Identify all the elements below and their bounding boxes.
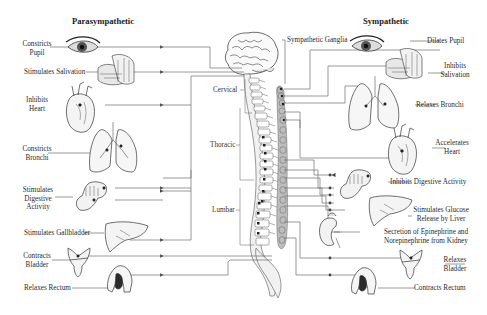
label-line: Accelerates — [432, 139, 472, 148]
eye-icon — [350, 36, 384, 51]
label-line: Release by Liver — [410, 215, 472, 224]
para-label-digestive: Stimulates Digestive Activity — [20, 186, 56, 212]
label-line: Bladder — [20, 261, 54, 270]
autonomic-nervous-system-diagram: Parasympathetic Sympathetic Sympathetic … — [0, 0, 487, 315]
label-line: Bronchi — [20, 154, 54, 163]
label-line: Heart — [22, 105, 52, 114]
para-label-bladder: Contracts Bladder — [20, 252, 54, 269]
liver-icon — [369, 196, 412, 226]
eye-icon — [66, 37, 100, 52]
symp-label-salivation: Inhibits Salivation — [438, 62, 472, 79]
sacrum-icon — [256, 248, 281, 298]
para-label-bronchi: Constricts Bronchi — [20, 145, 54, 162]
parasympathetic-title: Parasympathetic — [72, 16, 134, 26]
region-thoracic: Thoracic — [210, 141, 236, 149]
salivary-gland-icon — [386, 48, 422, 78]
symp-label-adrenal: Secretion of Epinephrine and Norepinephr… — [378, 228, 474, 245]
heart-icon — [66, 82, 94, 132]
para-label-rectum: Relaxes Rectum — [24, 284, 71, 293]
label-line: Constricts — [20, 40, 54, 49]
label-line: Constricts — [20, 145, 54, 154]
symp-label-bladder: Relaxes Bladder — [440, 256, 470, 273]
kidney-adrenal-icon — [319, 213, 340, 248]
label-line: Heart — [432, 148, 472, 157]
label-line: Stimulates Glucose — [410, 206, 472, 215]
sympathetic-ganglia-label: Sympathetic Ganglia — [287, 36, 347, 45]
label-line: Stimulates — [20, 186, 56, 195]
para-label-salivation: Stimulates Salivation — [24, 68, 85, 77]
bladder-icon — [68, 248, 90, 277]
digestive-tract-icon — [76, 182, 106, 211]
heart-icon — [388, 124, 416, 174]
label-line: Relaxes — [440, 256, 470, 265]
sympathetic-ganglia-chain — [277, 86, 288, 249]
digestive-tract-icon — [340, 170, 370, 199]
region-cervical: Cervical — [213, 86, 237, 94]
para-label-pupil: Constricts Pupil — [20, 40, 54, 57]
liver-icon — [105, 222, 148, 252]
symp-label-liver: Stimulates Glucose Release by Liver — [410, 206, 472, 223]
symp-label-heart: Accelerates Heart — [432, 139, 472, 156]
lungs-icon — [89, 122, 136, 172]
label-line: Inhibits — [22, 96, 52, 105]
symp-label-digestive: Inhibits Digestive Activity — [390, 178, 466, 187]
rectum-icon — [351, 268, 376, 294]
para-label-gallbladder: Stimulates Gallbladder — [24, 229, 90, 238]
label-line: Bladder — [440, 265, 470, 274]
para-label-heart: Inhibits Heart — [22, 96, 52, 113]
symp-label-rectum: Contracts Rectum — [414, 284, 466, 293]
label-line: Salivation — [438, 71, 472, 80]
rectum-icon — [107, 266, 132, 292]
bladder-icon — [400, 250, 422, 279]
lungs-icon — [349, 76, 399, 130]
region-lumbar: Lumbar — [212, 206, 235, 214]
label-line: Contracts — [20, 252, 54, 261]
diagram-artwork — [0, 0, 487, 315]
salivary-gland-icon — [98, 54, 134, 84]
label-line: Norepinephrine from Kidney — [378, 237, 474, 246]
label-line: Activity — [20, 203, 56, 212]
symp-label-bronchi: Relaxes Bronchi — [416, 101, 464, 110]
sympathetic-title: Sympathetic — [363, 16, 409, 26]
label-line: Secretion of Epinephrine and — [378, 228, 474, 237]
label-line: Pupil — [20, 49, 54, 58]
label-line: Inhibits — [438, 62, 472, 71]
label-line: Digestive — [20, 195, 56, 204]
symp-label-pupil: Dilates Pupil — [427, 37, 464, 46]
